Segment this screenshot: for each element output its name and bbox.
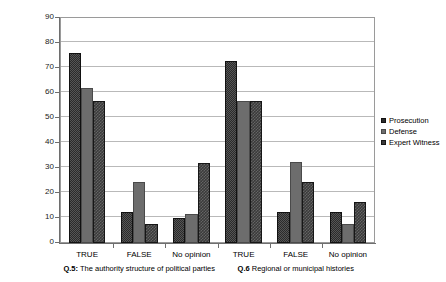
legend-label: Prosecution [389, 116, 429, 125]
x-axis-category-label: FALSE [113, 250, 165, 259]
y-axis-tick-label: 90 [45, 13, 54, 21]
bar [145, 224, 157, 243]
x-axis-tick [165, 244, 166, 248]
bars-layer [61, 18, 374, 243]
x-axis-category-label: TRUE [218, 250, 270, 259]
y-axis-tick-label: 30 [45, 163, 54, 171]
legend-swatch-icon [381, 140, 386, 145]
y-axis-tick-label: 0 [50, 238, 54, 246]
y-axis-tick [55, 67, 60, 68]
x-axis-tick [270, 244, 271, 248]
y-axis-tick-label: 50 [45, 113, 54, 121]
bar [81, 88, 93, 243]
group-caption-text: Regional or municipal histories [250, 264, 354, 273]
bar [133, 182, 145, 243]
y-axis-tick [55, 167, 60, 168]
bar-chart: 0102030405060708090 TRUEFALSENo opinionT… [0, 0, 446, 282]
y-axis-tick [55, 42, 60, 43]
y-axis-tick-label: 80 [45, 38, 54, 46]
bar [237, 101, 249, 244]
legend-item-prosecution: Prosecution [381, 116, 445, 125]
chart-legend: Prosecution Defense Expert Witness [381, 116, 445, 149]
y-axis-line [59, 17, 60, 244]
bar [290, 162, 302, 243]
bar [93, 101, 105, 244]
y-axis-tick-label: 60 [45, 88, 54, 96]
bar [198, 163, 210, 243]
y-axis-tick [55, 17, 60, 18]
x-axis-tick [322, 244, 323, 248]
bar [342, 224, 354, 243]
x-axis-category-label: TRUE [61, 250, 113, 259]
y-axis-tick [55, 192, 60, 193]
bar [173, 218, 185, 243]
y-axis-tick [55, 242, 60, 243]
x-axis-category-label: No opinion [165, 250, 217, 259]
group-caption: Q.6 Regional or municipal histories [218, 264, 375, 273]
bar [121, 212, 133, 243]
y-axis-tick-label: 40 [45, 138, 54, 146]
group-caption: Q.5: The authority structure of politica… [61, 264, 218, 273]
bar [225, 61, 237, 244]
legend-swatch-icon [381, 118, 386, 123]
bar [330, 212, 342, 243]
bar [250, 101, 262, 244]
legend-item-expert-witness: Expert Witness [381, 138, 445, 147]
group-caption-text: The authority structure of political par… [78, 264, 215, 273]
x-axis-tick [113, 244, 114, 248]
y-axis-tick [55, 142, 60, 143]
y-axis-tick [55, 217, 60, 218]
bar [185, 214, 197, 243]
y-axis-tick-label: 10 [45, 213, 54, 221]
bar [354, 202, 366, 243]
legend-item-defense: Defense [381, 127, 445, 136]
legend-swatch-icon [381, 129, 386, 134]
y-axis-tick-label: 20 [45, 188, 54, 196]
bar [69, 53, 81, 243]
legend-label: Expert Witness [389, 138, 439, 147]
group-caption-prefix: Q.5: [63, 264, 78, 273]
y-axis-tick [55, 92, 60, 93]
group-caption-prefix: Q.6 [238, 264, 250, 273]
x-axis-tick [218, 244, 219, 248]
bar [302, 182, 314, 243]
bar [277, 212, 289, 243]
x-axis-category-label: No opinion [322, 250, 374, 259]
y-axis-tick [55, 117, 60, 118]
y-axis-tick-label: 70 [45, 63, 54, 71]
x-axis-category-label: FALSE [270, 250, 322, 259]
legend-label: Defense [389, 127, 417, 136]
